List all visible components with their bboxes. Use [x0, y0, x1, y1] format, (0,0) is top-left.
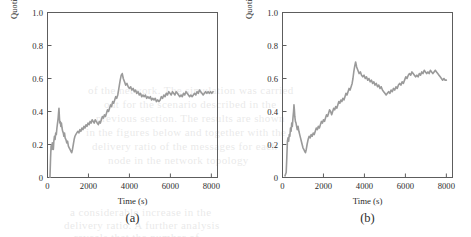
x-tick-label: 4000: [356, 182, 373, 191]
chart-svg-b: [282, 12, 453, 178]
tick-marks-b: [283, 13, 447, 178]
x-tick-label: 8000: [438, 182, 455, 191]
figure-b: Quotient of delivered and formed message…: [235, 0, 471, 237]
x-axis-label-a: Time (s): [47, 196, 218, 206]
data-line-a: [50, 74, 213, 178]
x-tick-label: 6000: [397, 182, 414, 191]
x-tick-label: 4000: [121, 182, 138, 191]
y-tick-label: 0.4: [267, 107, 278, 116]
x-tick-label: 2000: [315, 182, 332, 191]
figure-a: Quotient of delivered and formed message…: [0, 0, 236, 237]
x-tick-label: 2000: [80, 182, 97, 191]
y-tick-label: 0.6: [32, 74, 43, 83]
y-tick-label: 0: [274, 173, 278, 182]
figure-caption-b: (b): [282, 211, 453, 226]
y-axis-label-b: Quotient of delivered and formed message…: [243, 0, 257, 26]
chart-svg-a: [47, 12, 218, 178]
x-tick-label: 8000: [203, 182, 220, 191]
data-line-b: [285, 62, 446, 176]
plot-frame-a: [48, 13, 218, 178]
x-axis-label-b: Time (s): [282, 196, 453, 206]
y-tick-label: 0.2: [32, 140, 43, 149]
x-tick-label: 6000: [162, 182, 179, 191]
y-tick-label: 1.0: [267, 8, 278, 17]
x-tick-label: 0: [280, 182, 284, 191]
x-tick-label: 0: [45, 182, 49, 191]
plot-area-a: 00.20.40.60.81.002000400060008000: [47, 12, 218, 178]
figure-caption-a: (a): [47, 211, 218, 226]
y-tick-label: 0.2: [267, 140, 278, 149]
y-axis-label-a: Quotient of delivered and formed message…: [8, 0, 22, 26]
y-tick-label: 0: [39, 173, 43, 182]
y-tick-label: 0.8: [32, 41, 43, 50]
plot-frame-b: [283, 13, 453, 178]
y-tick-label: 0.4: [32, 107, 43, 116]
plot-area-b: 00.20.40.60.81.002000400060008000: [282, 12, 453, 178]
y-tick-label: 1.0: [32, 8, 43, 17]
y-tick-label: 0.6: [267, 74, 278, 83]
y-tick-label: 0.8: [267, 41, 278, 50]
